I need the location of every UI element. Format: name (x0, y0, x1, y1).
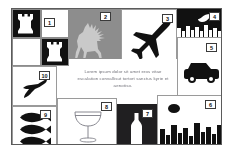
body-paragraph: Lorem ipsum dolor sit amet eros vitae es… (73, 68, 172, 89)
chess-rook-icon (16, 12, 36, 36)
panel-cocktail-glass[interactable]: 8 (57, 98, 117, 145)
deer-icon (73, 20, 119, 58)
panel-deer[interactable]: 2 (69, 9, 121, 59)
panel-badge-10: 10 (39, 71, 50, 80)
chess-square-dark-bottom-right (41, 38, 70, 67)
panel-badge-3: 3 (162, 14, 173, 23)
chess-square-dark-top-left (12, 9, 41, 38)
panel-night-skyline[interactable]: 4 (177, 9, 222, 37)
inverted-skyline-icon (177, 23, 222, 37)
panel-car[interactable]: 5 (177, 37, 222, 98)
panel-bottle[interactable]: 7 (117, 104, 157, 145)
panel-body-text: Lorem ipsum dolor sit amet eros vitae es… (69, 59, 177, 98)
panel-badge-4: 4 (209, 12, 220, 21)
panel-badge-8: 8 (101, 102, 112, 111)
city-skyline-icon (158, 119, 222, 145)
panel-badge-1: 1 (44, 18, 55, 27)
panel-day-skyline[interactable]: 6 (157, 95, 222, 145)
panel-badge-7: 7 (142, 109, 153, 118)
sun-icon (168, 104, 180, 113)
panel-chess-rooks[interactable]: 1 (12, 9, 69, 66)
chess-square-light-bottom-left (12, 38, 41, 67)
chess-rook-icon (45, 40, 65, 64)
panel-badge-9: 9 (40, 110, 51, 119)
airplane-icon (126, 17, 174, 61)
panel-flying-bird[interactable]: 10 (12, 66, 57, 106)
car-icon (183, 60, 220, 84)
panel-badge-6: 6 (205, 100, 216, 109)
fish-icon (18, 124, 52, 135)
panel-fish[interactable]: 9 (12, 106, 57, 145)
panel-badge-2: 2 (100, 12, 111, 21)
cocktail-glass-icon (72, 107, 104, 143)
fish-icon (18, 136, 52, 145)
flying-bird-icon (19, 77, 49, 101)
collage-board: 1 2 3 (0, 0, 233, 161)
collage-canvas: 1 2 3 (11, 8, 222, 145)
panel-badge-5: 5 (206, 43, 217, 52)
